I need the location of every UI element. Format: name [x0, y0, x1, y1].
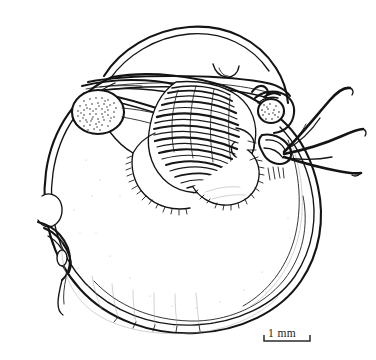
compound-eye-outline: [72, 90, 124, 134]
illustration-canvas: 1 mm: [0, 0, 376, 360]
figure-root: 1 mm: [0, 0, 376, 360]
appendage-upper-lobe: [38, 194, 62, 227]
scale-bar-label: 1 mm: [268, 327, 296, 339]
ocellus-outline: [258, 99, 284, 123]
